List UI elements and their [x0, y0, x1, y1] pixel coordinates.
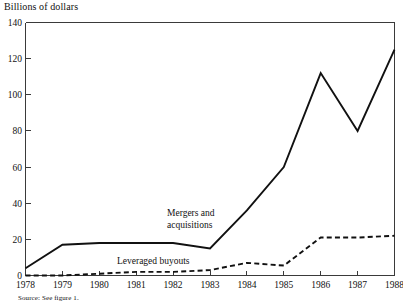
- y-tick-label: 100: [8, 90, 23, 100]
- annotation-line-1: Leveraged buyouts: [117, 256, 190, 266]
- x-tick-label: 1978: [16, 280, 35, 290]
- x-axis-ticks: [26, 271, 395, 276]
- x-axis-labels: 1978 1979 1980 1981 1982 1983 1984 1985 …: [16, 280, 403, 290]
- x-tick-label: 1988: [385, 280, 403, 290]
- x-tick-label: 1982: [164, 280, 183, 290]
- y-tick-label: 80: [13, 126, 23, 136]
- x-tick-label: 1985: [274, 280, 293, 290]
- y-tick-label: 20: [13, 235, 23, 245]
- y-axis-ticks: [26, 23, 31, 276]
- x-tick-label: 1987: [348, 280, 367, 290]
- y-tick-label: 40: [13, 199, 23, 209]
- source-note: Source: See figure 1.: [18, 294, 79, 302]
- annotation-mergers-and-acquisitions: Mergers and acquisitions: [167, 208, 215, 230]
- line-chart: 140 120 100 80 60 40 20 0 1978 1979: [0, 0, 403, 308]
- annotation-leveraged-buyouts: Leveraged buyouts: [117, 256, 190, 266]
- series-line-leveraged-buyouts: [26, 236, 395, 276]
- x-tick-label: 1980: [90, 280, 109, 290]
- y-tick-label: 140: [8, 18, 23, 28]
- x-tick-label: 1981: [127, 280, 146, 290]
- x-tick-label: 1979: [53, 280, 72, 290]
- y-tick-label: 120: [8, 54, 23, 64]
- x-tick-label: 1984: [237, 280, 256, 290]
- annotation-line-2: acquisitions: [167, 220, 213, 230]
- x-tick-label: 1986: [311, 280, 330, 290]
- series-line-mergers-and-acquisitions: [26, 50, 395, 269]
- annotation-line-1: Mergers and: [167, 208, 215, 218]
- y-tick-label: 60: [13, 163, 23, 173]
- figure-container: Billions of dollars 140 120 100 80 60 40…: [0, 0, 403, 308]
- y-axis-labels: 140 120 100 80 60 40 20 0: [8, 18, 23, 281]
- x-tick-label: 1983: [201, 280, 220, 290]
